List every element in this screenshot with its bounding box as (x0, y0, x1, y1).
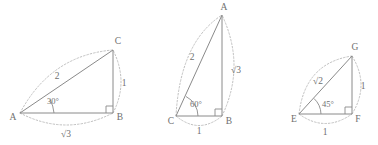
arc-side-CB (176, 116, 222, 126)
vertex-label-A: A (10, 112, 17, 122)
side-label-leg-1: 1 (122, 78, 127, 88)
vertex-label-G: G (352, 42, 359, 52)
right-angle-mark-F (345, 107, 352, 114)
triangle-45-45-90-right: E F G 45° √2 1 1 (291, 42, 366, 137)
triangle-30-60-90-left: A B C 30° 2 1 √3 (10, 36, 127, 139)
triangle-30-60-90-middle: C B A 60° 2 √3 1 (168, 2, 241, 136)
vertex-label-C: C (115, 36, 121, 46)
arc-side-EF (299, 114, 352, 124)
side-label-hypotenuse-2: 2 (190, 52, 195, 62)
vertex-label-E: E (291, 114, 297, 124)
arc-side-AB (20, 113, 113, 125)
side-label-leg-1: 1 (197, 126, 202, 136)
side-label-leg-1-horizontal: 1 (323, 127, 328, 137)
side-label-leg-1-vertical: 1 (361, 81, 366, 91)
angle-label-45: 45° (322, 99, 334, 109)
vertex-label-A: A (221, 2, 228, 12)
arc-side-BC (113, 50, 121, 113)
right-angle-mark-B (215, 109, 222, 116)
vertex-label-F: F (355, 114, 360, 124)
segment-AC (20, 50, 113, 113)
side-label-leg-sqrt3: √3 (231, 65, 241, 75)
vertex-label-B: B (226, 116, 232, 126)
vertex-label-B: B (117, 112, 123, 122)
angle-label-30: 30° (47, 96, 59, 106)
triangles-svg: A B C 30° 2 1 √3 C B A 60° 2 √3 1 (0, 0, 378, 145)
angle-label-60: 60° (190, 99, 202, 109)
right-angle-mark-B (106, 106, 113, 113)
vertex-label-C: C (168, 116, 174, 126)
side-label-hypotenuse-sqrt2: √2 (313, 76, 323, 86)
side-label-leg-sqrt3: √3 (61, 129, 71, 139)
side-label-hypotenuse-2: 2 (55, 71, 60, 81)
geometry-figure: A B C 30° 2 1 √3 C B A 60° 2 √3 1 (0, 0, 378, 145)
angle-arc-E (314, 99, 321, 115)
